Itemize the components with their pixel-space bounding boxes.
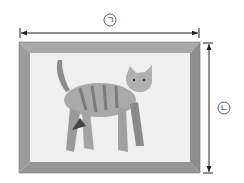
height-label: ㄴ [218, 101, 230, 115]
width-label: ㄱ [104, 13, 116, 27]
height-dimension-line [203, 43, 213, 173]
framed-picture-diagram [0, 0, 244, 183]
width-dimension-line [20, 28, 199, 38]
